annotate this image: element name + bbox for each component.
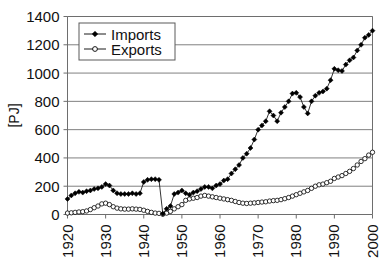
- x-tick-label: 1930: [97, 225, 114, 258]
- x-tick-label: 1940: [135, 225, 152, 258]
- exports-marker: [359, 159, 363, 163]
- x-axis-tick-labels: 192019301940195019601970198019902000: [59, 225, 381, 258]
- y-tick-label: 0: [51, 206, 59, 223]
- x-tick-label: 1980: [287, 225, 304, 258]
- y-tick-label: 800: [34, 93, 59, 110]
- x-tick-label: 1960: [211, 225, 228, 258]
- y-tick-label: 1400: [26, 8, 59, 25]
- y-tick-label: 1200: [26, 36, 59, 53]
- y-axis-title: [PJ]: [6, 103, 22, 127]
- y-tick-label: 1000: [26, 65, 59, 82]
- exports-marker: [180, 202, 184, 206]
- x-tick-label: 1990: [325, 225, 342, 258]
- exports-marker: [351, 166, 355, 170]
- chart-svg: 0200400600800100012001400 19201930194019…: [0, 0, 390, 266]
- x-tick-label: 1920: [59, 225, 76, 258]
- y-tick-label: 200: [34, 178, 59, 195]
- x-tick-label: 1950: [173, 225, 190, 258]
- exports-marker: [328, 179, 332, 183]
- x-tick-label: 2000: [364, 225, 381, 258]
- y-axis-title-text: [PJ]: [6, 103, 22, 127]
- legend-label-exports: Exports: [111, 41, 162, 58]
- chart-container: 0200400600800100012001400 19201930194019…: [0, 0, 390, 266]
- chart-legend: ImportsExports: [79, 23, 175, 60]
- x-tick-label: 1970: [249, 225, 266, 258]
- y-tick-label: 600: [34, 121, 59, 138]
- y-tick-label: 400: [34, 149, 59, 166]
- exports-marker: [363, 156, 367, 160]
- legend-marker-exports: [93, 47, 98, 52]
- exports-marker: [366, 153, 370, 157]
- exports-marker: [347, 169, 351, 173]
- exports-marker: [355, 163, 359, 167]
- exports-marker: [370, 150, 374, 154]
